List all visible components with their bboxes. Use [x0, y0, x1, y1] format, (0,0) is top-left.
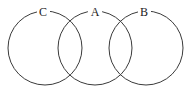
venn-diagram: C A B — [0, 0, 189, 90]
set-label-b: B — [140, 5, 148, 19]
circle-a — [58, 11, 132, 85]
circle-b — [109, 11, 183, 85]
circle-c — [8, 11, 82, 85]
set-label-c: C — [39, 5, 47, 19]
set-label-a: A — [91, 5, 100, 19]
